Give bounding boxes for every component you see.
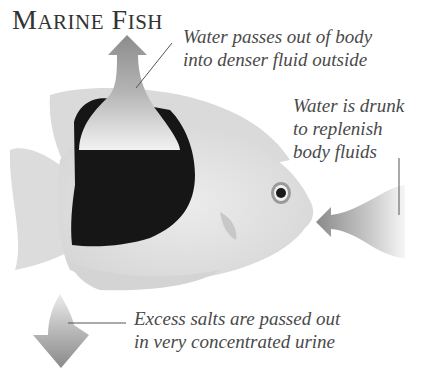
label-water-out: Water passes out of body into denser flu… [183, 25, 372, 71]
arrow-down-salts-out-icon [33, 294, 89, 368]
page-title: MARINE FISH [12, 4, 163, 36]
fish-eye [271, 182, 291, 204]
label-salts-out: Excess salts are passed out in very conc… [134, 307, 340, 353]
label-water-drunk: Water is drunk to replenish body fluids [293, 94, 404, 163]
arrow-left-water-in-icon [316, 185, 405, 258]
